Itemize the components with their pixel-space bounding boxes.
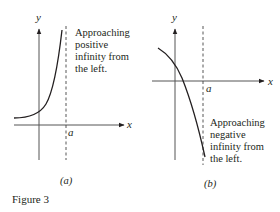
panel-a-annotation: Approaching positive infinity from the l… — [75, 27, 130, 75]
panel-b-asymptote-label: a — [206, 82, 212, 94]
panel-a-annotation-line: the left. — [75, 63, 130, 75]
panel-b-curve — [158, 48, 205, 157]
figure-canvas: y x a y x a — [0, 0, 280, 212]
panel-b-annotation-line: the left. — [210, 153, 265, 165]
panel-a-annotation-line: Approaching — [75, 27, 130, 39]
panel-b-annotation-line: Approaching — [210, 117, 265, 129]
panel-a-annotation-line: positive — [75, 39, 130, 51]
panel-b-annotation-line: infinity from — [210, 141, 265, 153]
panel-a-annotation-line: infinity from — [75, 51, 130, 63]
panel-b-sublabel: (b) — [204, 178, 216, 189]
panel-b-annotation: Approaching negative infinity from the l… — [210, 117, 265, 165]
panel-b-y-label: y — [171, 11, 177, 23]
figure-caption: Figure 3 — [12, 193, 49, 205]
panel-a-y-label: y — [35, 11, 41, 23]
panel-b-x-label: x — [267, 75, 273, 87]
panel-a-curve — [14, 30, 62, 118]
panel-a-asymptote-label: a — [68, 126, 74, 138]
panel-a-x-label: x — [126, 118, 132, 130]
panel-b-annotation-line: negative — [210, 129, 265, 141]
panel-a-sublabel: (a) — [60, 175, 72, 186]
